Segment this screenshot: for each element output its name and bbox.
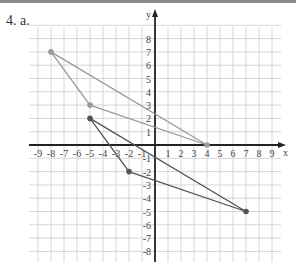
y-tick-label: -8: [143, 246, 151, 257]
y-tick-label: -5: [143, 207, 151, 218]
x-tick-label: 9: [270, 148, 275, 159]
x-tick-label: 8: [257, 148, 262, 159]
x-tick-label: -2: [125, 148, 133, 159]
x-tick-label: -4: [99, 148, 107, 159]
y-axis-label: y: [146, 9, 151, 20]
vertex-point: [48, 49, 54, 55]
vertex-point: [204, 142, 210, 148]
y-tick-label: -2: [143, 167, 151, 178]
y-axis-arrow-icon: [152, 9, 158, 17]
x-tick-label: -9: [34, 148, 42, 159]
x-tick-label: -7: [60, 148, 68, 159]
x-tick-label: 3: [192, 148, 197, 159]
coordinate-plane: xy-9-8-7-6-5-4-3-2-112345678987654321-1-…: [0, 0, 296, 268]
x-tick-label: 5: [218, 148, 223, 159]
vertex-point: [126, 169, 132, 175]
x-tick-label: -5: [86, 148, 94, 159]
y-tick-label: 7: [146, 47, 151, 58]
vertex-point: [243, 209, 249, 215]
y-tick-label: -4: [143, 193, 151, 204]
y-tick-label: 5: [146, 74, 151, 85]
y-tick-label: -6: [143, 220, 151, 231]
x-tick-label: 4: [205, 148, 210, 159]
x-tick-label: 1: [166, 148, 171, 159]
y-tick-label: 8: [146, 34, 151, 45]
x-tick-label: 6: [231, 148, 236, 159]
x-tick-label: 2: [179, 148, 184, 159]
x-tick-label: 7: [244, 148, 249, 159]
y-tick-label: 4: [146, 87, 151, 98]
vertex-point: [87, 116, 93, 122]
x-axis-label: x: [283, 147, 288, 158]
y-tick-label: 6: [146, 60, 151, 71]
vertex-point: [87, 102, 93, 108]
y-tick-label: -1: [143, 153, 151, 164]
y-tick-label: -3: [143, 180, 151, 191]
y-tick-label: -7: [143, 233, 151, 244]
x-tick-label: -6: [73, 148, 81, 159]
y-tick-label: 1: [146, 127, 151, 138]
x-tick-label: -8: [47, 148, 55, 159]
y-tick-label: 2: [146, 113, 151, 124]
